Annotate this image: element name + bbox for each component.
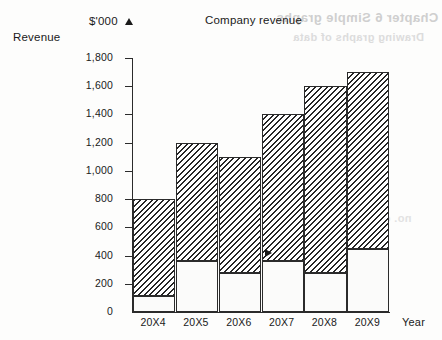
y-tick-label: 1,800 (86, 51, 113, 63)
y-axis-arrow-icon (125, 18, 133, 25)
scan-bleed-through-line2: Drawing graphs of data (293, 31, 424, 43)
y-tick-label: 1,400 (86, 107, 113, 119)
x-tick-label-20X5: 20X5 (175, 316, 217, 328)
y-tick: 600 (125, 227, 132, 228)
y-tick-label: 200 (95, 277, 113, 289)
x-tick-label-20X9: 20X9 (346, 316, 388, 328)
bar-20X7 (262, 114, 304, 312)
y-tick: 200 (125, 284, 132, 285)
y-tick-label: 0 (107, 305, 113, 317)
y-tick: 400 (125, 256, 132, 257)
bar-segment-upper (347, 72, 389, 248)
y-tick-label: 1,600 (86, 79, 113, 91)
bar-group (133, 58, 390, 312)
bar-20X6 (219, 157, 261, 312)
y-tick: 1,800 (125, 58, 132, 59)
chart-title: Company revenue (205, 14, 302, 26)
x-axis-line (132, 312, 390, 313)
y-tick-label: 1,200 (86, 136, 113, 148)
bar-segment-upper (262, 114, 304, 261)
x-tick-label-20X4: 20X4 (132, 316, 174, 328)
bar-20X8 (304, 86, 346, 312)
y-tick: 800 (125, 199, 132, 200)
y-tick: 1,200 (125, 143, 132, 144)
y-tick-label: 1,000 (86, 164, 113, 176)
y-tick: 0 (125, 312, 132, 313)
y-tick: 1,000 (125, 171, 132, 172)
bar-segment-lower (176, 261, 218, 312)
x-tick-label-20X6: 20X6 (218, 316, 260, 328)
bar-20X9 (347, 72, 389, 312)
bar-20X4 (133, 199, 175, 312)
plot-area: 02004006008001,0001,2001,4001,6001,800 (132, 58, 390, 312)
bar-20X5 (176, 143, 218, 312)
y-tick: 1,400 (125, 114, 132, 115)
bar-segment-lower (347, 249, 389, 313)
y-tick: 1,600 (125, 86, 132, 87)
bar-segment-lower (219, 273, 261, 313)
bar-segment-upper (176, 143, 218, 262)
x-axis-arrow-icon (265, 249, 272, 257)
bar-segment-upper (219, 157, 261, 273)
y-tick-label: 800 (95, 192, 113, 204)
x-tick-label-20X7: 20X7 (261, 316, 303, 328)
y-tick-label: 600 (95, 220, 113, 232)
x-tick-label-20X8: 20X8 (303, 316, 345, 328)
bar-segment-lower (304, 273, 346, 313)
y-tick-label: 400 (95, 249, 113, 261)
bar-segment-lower (262, 261, 304, 312)
y-axis-unit-label: $'000 (89, 15, 118, 27)
revenue-side-label: Revenue (13, 31, 60, 43)
bar-segment-upper (133, 199, 175, 296)
x-axis-tick-labels: 20X420X520X620X720X820X9 (132, 316, 390, 332)
x-axis-title: Year (402, 316, 425, 328)
bar-segment-lower (133, 296, 175, 312)
bar-segment-upper (304, 86, 346, 272)
chart-page: Chapter 6 Simple graphs Drawing graphs o… (0, 0, 442, 340)
